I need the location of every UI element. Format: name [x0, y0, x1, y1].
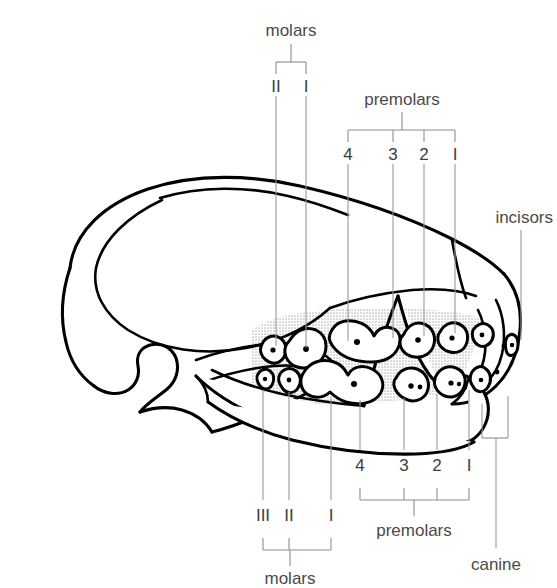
label-molars-bottom: molars	[264, 569, 315, 588]
lower-premolar-number-1: I	[467, 456, 472, 475]
lower-molar-number-3: III	[256, 506, 270, 525]
label-premolars-top: premolars	[364, 90, 440, 109]
label-premolars-bottom: premolars	[376, 521, 452, 540]
label-molars-top: molars	[265, 21, 316, 40]
skull-dentition-diagram: molars II I premolars 4 3 2 I incisors 4…	[0, 0, 557, 588]
upper-molar-number-2: II	[271, 77, 280, 96]
lower-molar-number-2: II	[284, 506, 293, 525]
upper-molar-number-1: I	[304, 77, 309, 96]
lower-premolar-number-2: 2	[432, 456, 441, 475]
lower-premolar-number-3: 3	[399, 456, 408, 475]
label-text-layer: molars II I premolars 4 3 2 I incisors 4…	[0, 0, 557, 588]
label-incisors: incisors	[495, 208, 553, 227]
label-canine: canine	[471, 555, 521, 574]
upper-premolar-number-4: 4	[343, 145, 352, 164]
upper-premolar-number-3: 3	[388, 145, 397, 164]
upper-premolar-number-1: I	[453, 145, 458, 164]
lower-premolar-number-4: 4	[355, 456, 364, 475]
lower-molar-number-1: I	[329, 506, 334, 525]
upper-premolar-number-2: 2	[419, 145, 428, 164]
